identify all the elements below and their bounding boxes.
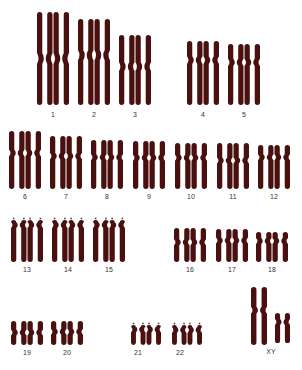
chromosome-label-17: 17 <box>228 266 236 273</box>
chromosome-pair-4 <box>187 38 219 108</box>
chromosome-label-19: 19 <box>23 349 31 356</box>
chromosome-pair-13 <box>11 217 43 265</box>
chromosome-pair-15 <box>93 217 125 265</box>
chromosome-label-6: 6 <box>23 193 27 200</box>
chromosome-label-12: 12 <box>270 193 278 200</box>
chromosome-label-4: 4 <box>201 111 205 118</box>
chromosome-label-22: 22 <box>176 349 184 356</box>
chromosome-pair-1 <box>37 9 69 108</box>
chromosome-pair-14 <box>52 217 84 265</box>
chromosome-label-5: 5 <box>242 111 246 118</box>
x-chromosome <box>251 287 267 345</box>
chromosome-label-20: 20 <box>63 349 71 356</box>
chromosome-pair-3 <box>119 32 151 108</box>
chromosome-pair-16 <box>174 225 206 265</box>
chromosome-label-14: 14 <box>64 266 72 273</box>
chromosome-pair-9 <box>133 138 165 192</box>
chromosome-pair-2 <box>78 16 110 108</box>
chromosome-pair-18 <box>256 229 288 265</box>
chromosome-pair-19 <box>11 318 43 348</box>
chromosome-pair-5 <box>228 41 260 108</box>
chromosome-pair-21 <box>131 322 161 348</box>
chromosome-pair-20 <box>51 318 83 348</box>
chromosome-label-16: 16 <box>186 266 194 273</box>
chromosome-label-13: 13 <box>23 266 31 273</box>
chromosome-label-1: 1 <box>51 111 55 118</box>
chromosome-label-15: 15 <box>105 266 113 273</box>
sex-chromosome-label: XY <box>266 348 275 355</box>
chromosome-pair-12 <box>258 142 290 192</box>
chromosome-label-9: 9 <box>147 193 151 200</box>
chromosome-label-2: 2 <box>92 111 96 118</box>
chromosome-label-8: 8 <box>105 193 109 200</box>
chromosome-pair-11 <box>217 140 249 192</box>
chromosome-label-7: 7 <box>64 193 68 200</box>
chromosome-label-3: 3 <box>133 111 137 118</box>
chromosome-pair-8 <box>91 137 123 192</box>
chromosome-label-18: 18 <box>268 266 276 273</box>
chromosome-pair-6 <box>9 128 41 192</box>
chromosome-label-10: 10 <box>187 193 195 200</box>
chromosome-pair-17 <box>216 226 248 265</box>
y-chromosome <box>275 313 290 343</box>
chromosome-label-21: 21 <box>134 349 142 356</box>
chromosome-pair-7 <box>50 133 82 192</box>
chromosome-label-11: 11 <box>229 193 236 200</box>
chromosome-pair-10 <box>175 140 207 192</box>
chromosome-pair-22 <box>172 322 202 348</box>
